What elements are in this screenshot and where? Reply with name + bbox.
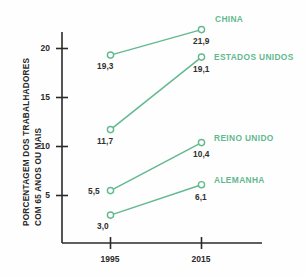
series-line-reino-unido bbox=[111, 143, 202, 191]
x-tick-label-2015: 2015 bbox=[181, 254, 221, 264]
data-point-reino-unido-1995 bbox=[107, 188, 113, 194]
series-label-alemanha: ALEMANHA bbox=[214, 175, 265, 185]
data-point-estados-unidos-2015 bbox=[198, 54, 204, 60]
value-label-estados-unidos-2015: 19,1 bbox=[193, 64, 210, 74]
value-label-china-1995: 19,3 bbox=[97, 61, 114, 71]
series-line-alemanha bbox=[111, 185, 202, 215]
y-axis-title: PORCENTAGEM DOS TRABALHADORES COM 65 ANO… bbox=[2, 30, 42, 230]
value-label-alemanha-1995: 3,0 bbox=[97, 221, 109, 231]
series-label-estados-unidos: ESTADOS UNIDOS bbox=[214, 52, 294, 62]
x-tick-label-1995: 1995 bbox=[90, 254, 130, 264]
series-line-china bbox=[111, 30, 202, 55]
data-point-china-2015 bbox=[198, 27, 204, 33]
y-tick-label-15: 15 bbox=[30, 92, 50, 102]
value-label-alemanha-2015: 6,1 bbox=[195, 192, 207, 202]
series-line-estados-unidos bbox=[111, 57, 202, 130]
value-label-reino-unido-1995: 5,5 bbox=[88, 186, 100, 196]
y-tick-label-10: 10 bbox=[30, 141, 50, 151]
chart-container: PORCENTAGEM DOS TRABALHADORES COM 65 ANO… bbox=[0, 0, 306, 276]
data-point-alemanha-2015 bbox=[198, 182, 204, 188]
data-point-china-1995 bbox=[107, 52, 113, 58]
y-tick-label-5: 5 bbox=[30, 190, 50, 200]
series-label-reino-unido: REINO UNIDO bbox=[214, 133, 274, 143]
series-label-china: CHINA bbox=[215, 14, 243, 24]
value-label-estados-unidos-1995: 11,7 bbox=[97, 136, 113, 146]
data-point-reino-unido-2015 bbox=[198, 140, 204, 146]
data-point-alemanha-1995 bbox=[107, 212, 113, 218]
y-tick-label-20: 20 bbox=[30, 43, 50, 53]
data-point-estados-unidos-1995 bbox=[107, 127, 113, 133]
value-label-china-2015: 21,9 bbox=[193, 36, 210, 46]
value-label-reino-unido-2015: 10,4 bbox=[193, 149, 210, 159]
